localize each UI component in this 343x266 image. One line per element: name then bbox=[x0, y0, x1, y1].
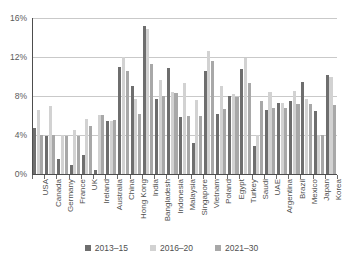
x-tick bbox=[117, 175, 118, 179]
bar bbox=[265, 110, 268, 174]
x-tick-label: UK bbox=[90, 179, 99, 190]
x-tick-label: UAE bbox=[273, 179, 282, 195]
bar bbox=[301, 82, 304, 174]
bar bbox=[204, 71, 207, 174]
bar bbox=[314, 111, 317, 174]
bar-group bbox=[264, 18, 276, 174]
x-tick-label: Poland bbox=[224, 179, 233, 204]
bar bbox=[281, 103, 284, 174]
x-tick bbox=[264, 175, 265, 179]
bar bbox=[195, 100, 198, 174]
bar-group bbox=[178, 18, 190, 174]
x-tick-label: Australia bbox=[115, 179, 124, 210]
x-tick-label: Egypt bbox=[237, 179, 246, 199]
bar bbox=[159, 80, 162, 174]
bar bbox=[65, 136, 68, 174]
y-tick-label: 12% bbox=[10, 52, 27, 62]
bar-group bbox=[130, 18, 142, 174]
bar bbox=[106, 121, 109, 174]
bar bbox=[98, 115, 101, 174]
bar bbox=[113, 120, 116, 174]
bar bbox=[268, 92, 271, 174]
legend-label: 2016–20 bbox=[160, 243, 193, 253]
bar bbox=[122, 57, 125, 174]
bar-groups bbox=[32, 18, 337, 174]
legend-item[interactable]: 2016–20 bbox=[150, 243, 193, 253]
y-tick-label: 8% bbox=[15, 91, 27, 101]
x-tick bbox=[166, 175, 167, 179]
x-tick-label: Mexico bbox=[310, 179, 319, 204]
bar bbox=[77, 136, 80, 174]
bar bbox=[317, 135, 320, 174]
x-tick-label: Japan bbox=[322, 179, 331, 201]
bar bbox=[199, 116, 202, 175]
legend-item[interactable]: 2013–15 bbox=[85, 243, 128, 253]
x-tick bbox=[215, 175, 216, 179]
bar bbox=[155, 99, 158, 174]
x-tick-label: Bangladesh bbox=[163, 179, 172, 221]
bar bbox=[146, 29, 149, 174]
plot-area bbox=[32, 18, 337, 174]
bar bbox=[131, 86, 134, 174]
x-tick-label: Argentina bbox=[285, 179, 294, 213]
x-tick-label: India bbox=[151, 179, 160, 196]
bar bbox=[326, 75, 329, 174]
x-tick-label: Brazil bbox=[298, 179, 307, 199]
bar-group bbox=[44, 18, 56, 174]
x-tick bbox=[288, 175, 289, 179]
bar bbox=[309, 104, 312, 174]
legend-swatch-icon bbox=[85, 245, 91, 251]
bar bbox=[33, 128, 36, 174]
bar bbox=[49, 106, 52, 174]
bar bbox=[289, 101, 292, 174]
bar bbox=[293, 91, 296, 174]
bar-group bbox=[93, 18, 105, 174]
bar bbox=[118, 67, 121, 174]
bar-group bbox=[276, 18, 288, 174]
x-tick bbox=[239, 175, 240, 179]
bar bbox=[272, 108, 275, 174]
bar-group bbox=[300, 18, 312, 174]
bar bbox=[37, 110, 40, 174]
x-tick-label: USA bbox=[41, 179, 50, 195]
bar bbox=[329, 77, 332, 174]
y-tick-label: 4% bbox=[15, 130, 27, 140]
x-tick bbox=[105, 175, 106, 179]
x-tick bbox=[44, 175, 45, 179]
x-tick bbox=[142, 175, 143, 179]
bar bbox=[228, 96, 231, 174]
bar bbox=[174, 93, 177, 174]
bar bbox=[73, 130, 76, 174]
bar bbox=[321, 135, 324, 174]
bar-group bbox=[313, 18, 325, 174]
bar bbox=[138, 114, 141, 174]
bar-group bbox=[166, 18, 178, 174]
bar-group bbox=[215, 18, 227, 174]
bar bbox=[183, 83, 186, 174]
bar bbox=[284, 108, 287, 174]
x-tick bbox=[337, 175, 338, 179]
bar bbox=[126, 71, 129, 174]
bar-group bbox=[117, 18, 129, 174]
bar-chart: 0%4%8%12%16% USACanadaGermanyFranceUKIre… bbox=[0, 0, 343, 266]
x-tick bbox=[203, 175, 204, 179]
x-axis-labels: USACanadaGermanyFranceUKIrelandAustralia… bbox=[32, 179, 337, 237]
x-tick-label: Korea bbox=[334, 179, 343, 200]
x-tick bbox=[69, 175, 70, 179]
y-axis-labels: 0%4%8%12%16% bbox=[0, 0, 30, 266]
x-tick bbox=[325, 175, 326, 179]
bar-group bbox=[105, 18, 117, 174]
bar bbox=[89, 126, 92, 174]
y-tick-label: 16% bbox=[10, 13, 27, 23]
bar bbox=[305, 99, 308, 174]
legend-swatch-icon bbox=[215, 245, 221, 251]
bar bbox=[70, 165, 73, 174]
x-tick bbox=[93, 175, 94, 179]
bar bbox=[235, 97, 238, 174]
x-tick-label: Malaysia bbox=[188, 179, 197, 211]
legend-item[interactable]: 2021–30 bbox=[215, 243, 258, 253]
bar bbox=[101, 115, 104, 174]
x-tick bbox=[154, 175, 155, 179]
x-tick bbox=[32, 175, 33, 179]
bar-group bbox=[288, 18, 300, 174]
